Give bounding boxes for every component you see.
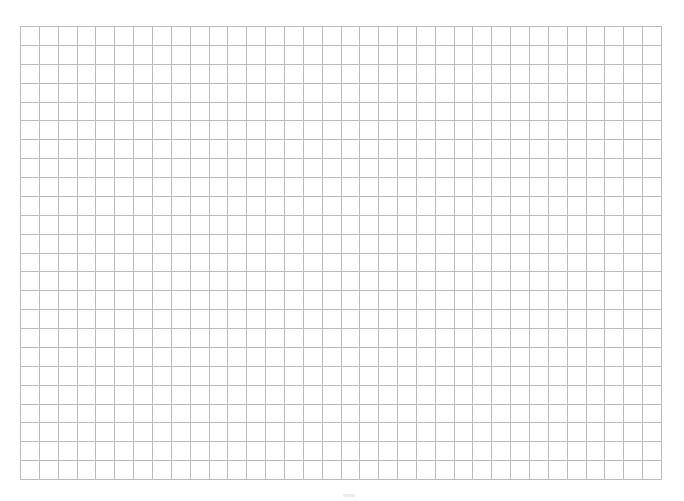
grid (20, 26, 662, 480)
page-footer-mark (343, 494, 355, 497)
grid-paper-page (0, 0, 684, 501)
grid-lines (20, 26, 662, 480)
